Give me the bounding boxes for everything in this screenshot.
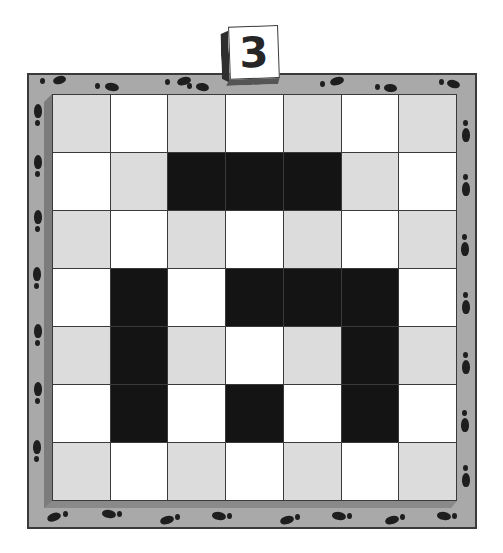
grid-cell-r1-c2[interactable] — [168, 153, 225, 210]
grid-cell-r3-c1[interactable] — [111, 269, 168, 326]
board-bevel-bottom — [44, 501, 457, 508]
grid-cell-r2-c3[interactable] — [226, 211, 283, 268]
grid-cell-r2-c1[interactable] — [111, 211, 168, 268]
grid-cell-r3-c2[interactable] — [168, 269, 225, 326]
footprint-toe-icon — [95, 83, 100, 89]
footprint-icon — [33, 267, 41, 281]
grid-cell-r6-c3[interactable] — [226, 443, 283, 500]
grid-cell-r0-c0[interactable] — [53, 95, 110, 152]
grid-cell-r0-c5[interactable] — [342, 95, 399, 152]
grid-cell-r5-c4[interactable] — [284, 385, 341, 442]
grid-cell-r4-c0[interactable] — [53, 327, 110, 384]
grid-cell-r1-c1[interactable] — [111, 153, 168, 210]
footprint-toe-icon — [35, 171, 40, 177]
grid-cell-r1-c6[interactable] — [399, 153, 456, 210]
grid-cell-r5-c5[interactable] — [342, 385, 399, 442]
grid-cell-r1-c4[interactable] — [284, 153, 341, 210]
grid-cell-r0-c1[interactable] — [111, 95, 168, 152]
footprint-toe-icon — [463, 174, 468, 180]
grid-cell-r6-c6[interactable] — [399, 443, 456, 500]
grid-cell-r2-c0[interactable] — [53, 211, 110, 268]
grid-cell-r4-c4[interactable] — [284, 327, 341, 384]
grid-cell-r6-c4[interactable] — [284, 443, 341, 500]
grid-cell-r4-c1[interactable] — [111, 327, 168, 384]
grid-cell-r5-c6[interactable] — [399, 385, 456, 442]
footprint-icon — [462, 473, 470, 487]
grid-cell-r5-c1[interactable] — [111, 385, 168, 442]
footprint-toe-icon — [35, 340, 40, 346]
footprint-toe-icon — [165, 79, 170, 85]
grid-cell-r6-c1[interactable] — [111, 443, 168, 500]
footprint-toe-icon — [462, 234, 467, 240]
footprint-icon — [34, 382, 42, 396]
footprint-toe-icon — [35, 398, 40, 404]
grid-cell-r1-c0[interactable] — [53, 153, 110, 210]
footprint-toe-icon — [463, 292, 468, 298]
grid-cell-r3-c4[interactable] — [284, 269, 341, 326]
level-number: 3 — [228, 25, 280, 80]
footprint-icon — [461, 418, 469, 432]
grid-cell-r4-c3[interactable] — [226, 327, 283, 384]
footprint-toe-icon — [34, 283, 39, 289]
footprint-toe-icon — [320, 81, 325, 87]
footprint-toe-icon — [463, 120, 468, 126]
grid-cell-r5-c0[interactable] — [53, 385, 110, 442]
footprint-toe-icon — [439, 79, 444, 85]
footprint-icon — [462, 360, 470, 374]
footprint-icon — [462, 182, 470, 196]
grid-cell-r0-c2[interactable] — [168, 95, 225, 152]
grid-cell-r4-c6[interactable] — [399, 327, 456, 384]
footprint-toe-icon — [187, 83, 192, 89]
footprint-toe-icon — [295, 514, 300, 520]
footprint-toe-icon — [375, 84, 380, 90]
grid-cell-r0-c3[interactable] — [226, 95, 283, 152]
footprint-icon — [384, 83, 398, 92]
footprint-icon — [34, 104, 42, 118]
footprint-icon — [34, 210, 42, 224]
grid-cell-r4-c2[interactable] — [168, 327, 225, 384]
grid-cell-r3-c3[interactable] — [226, 269, 283, 326]
grid-cell-r2-c4[interactable] — [284, 211, 341, 268]
footprint-icon — [461, 242, 469, 256]
footprint-icon — [33, 440, 41, 454]
grid-cell-r6-c2[interactable] — [168, 443, 225, 500]
grid-cell-r6-c5[interactable] — [342, 443, 399, 500]
footprint-toe-icon — [347, 513, 352, 519]
level-number-tile: 3 — [220, 23, 282, 85]
footprint-toe-icon — [117, 511, 122, 517]
footprint-icon — [34, 155, 42, 169]
grid-cell-r0-c4[interactable] — [284, 95, 341, 152]
board-bevel-left — [44, 94, 52, 508]
grid-cell-r2-c6[interactable] — [399, 211, 456, 268]
footprint-toe-icon — [35, 120, 40, 126]
grid-cell-r1-c5[interactable] — [342, 153, 399, 210]
footprint-icon — [462, 128, 470, 142]
grid-cell-r5-c3[interactable] — [226, 385, 283, 442]
footprint-toe-icon — [463, 465, 468, 471]
footprint-toe-icon — [463, 352, 468, 358]
footprint-toe-icon — [452, 513, 457, 519]
puzzle-grid — [52, 94, 457, 501]
grid-cell-r2-c5[interactable] — [342, 211, 399, 268]
footprint-toe-icon — [63, 511, 68, 517]
footprint-toe-icon — [400, 514, 405, 520]
grid-cell-r3-c0[interactable] — [53, 269, 110, 326]
footprint-icon — [462, 300, 470, 314]
grid-cell-r1-c3[interactable] — [226, 153, 283, 210]
grid-cell-r0-c6[interactable] — [399, 95, 456, 152]
grid-cell-r3-c5[interactable] — [342, 269, 399, 326]
grid-cell-r4-c5[interactable] — [342, 327, 399, 384]
footprint-toe-icon — [35, 226, 40, 232]
grid-cell-r6-c0[interactable] — [53, 443, 110, 500]
footprint-toe-icon — [34, 456, 39, 462]
footprint-icon — [34, 324, 42, 338]
footprint-toe-icon — [40, 78, 45, 84]
footprint-toe-icon — [462, 410, 467, 416]
grid-cell-r5-c2[interactable] — [168, 385, 225, 442]
footprint-toe-icon — [175, 514, 180, 520]
grid-cell-r2-c2[interactable] — [168, 211, 225, 268]
grid-cell-r3-c6[interactable] — [399, 269, 456, 326]
footprint-toe-icon — [227, 513, 232, 519]
